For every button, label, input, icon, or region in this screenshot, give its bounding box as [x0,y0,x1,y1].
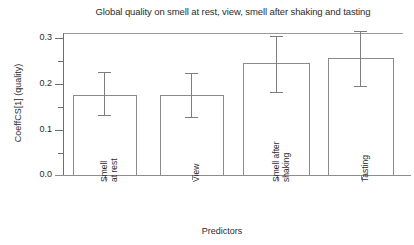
x-axis-title: Predictors [172,226,272,236]
y-tick-label-0.1: 0.1 [24,125,52,134]
chart-title: Global quality on smell at rest, view, s… [63,6,403,17]
error-bar-line-smell-after-shaking [276,36,277,92]
y-tick-label-0.2: 0.2 [24,79,52,88]
y-tick-0.3 [55,38,63,39]
bar-chart-figure: Global quality on smell at rest, view, s… [0,0,414,245]
y-tick-0.2 [55,84,63,85]
error-bar-cap-lower-smell-after-shaking [270,92,283,93]
y-axis-title: CoeffCS[1] (quality) [13,43,23,163]
error-bar-cap-upper-view [185,73,198,74]
error-bar-cap-upper-tasting [354,31,367,32]
y-tick-0.1 [55,130,63,131]
error-bar-line-smell-at-rest [104,72,105,115]
error-bar-cap-lower-smell-at-rest [98,115,111,116]
error-bar-cap-lower-tasting [354,86,367,87]
error-bar-cap-lower-view [185,117,198,118]
x-label-smell-after-shaking-line2: shaking [282,153,292,182]
error-bar-line-tasting [360,31,361,86]
error-bar-line-view [191,73,192,117]
y-tick-label-0.0: 0.0 [24,170,52,179]
error-bar-cap-upper-smell-after-shaking [270,36,283,37]
x-label-tasting: Tasting [361,155,371,182]
x-label-smell-at-rest-line2: at rest [110,158,120,182]
x-label-view: View [192,164,202,182]
y-tick-label-0.3: 0.3 [24,33,52,42]
error-bar-cap-upper-smell-at-rest [98,72,111,73]
